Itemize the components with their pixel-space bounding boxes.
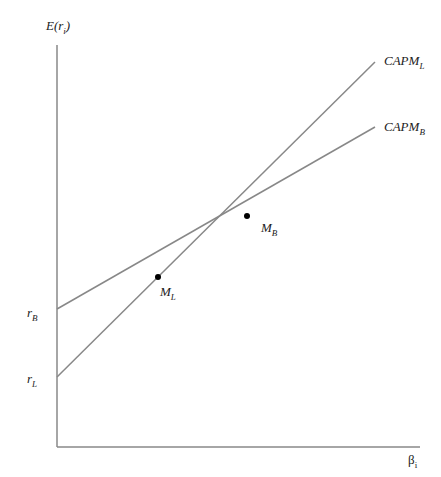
capm-diagram bbox=[0, 0, 441, 477]
x-axis-label: βi bbox=[408, 452, 417, 470]
point-m-b bbox=[244, 213, 250, 219]
point-m-l bbox=[155, 274, 161, 280]
m-b-label: MB bbox=[261, 220, 277, 238]
capm-b-line bbox=[57, 127, 375, 309]
intercept-r-b: rB bbox=[27, 305, 38, 323]
y-axis-label: E(ri) bbox=[46, 18, 70, 36]
intercept-r-l: rL bbox=[27, 371, 37, 389]
capm-l-line bbox=[57, 62, 375, 377]
m-l-label: ML bbox=[160, 284, 176, 302]
capm-l-label: CAPML bbox=[384, 53, 424, 71]
capm-b-label: CAPMB bbox=[384, 119, 425, 137]
